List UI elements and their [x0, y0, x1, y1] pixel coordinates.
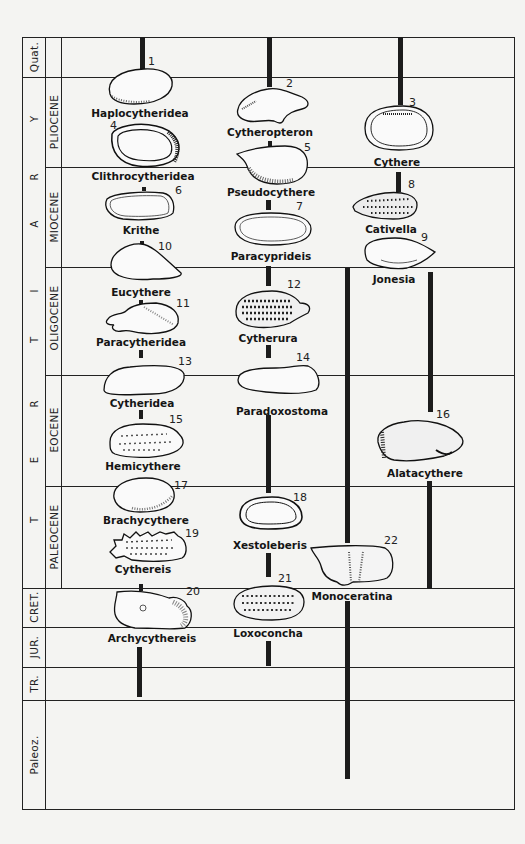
genus-label: Krithe [123, 224, 160, 236]
genus-number: 14 [296, 351, 310, 364]
genus-label: Brachycythere [103, 514, 189, 526]
genus-label: Cytheropteron [227, 126, 313, 138]
period-label-tr: TR. [28, 675, 40, 693]
range-bar-alatacythere [427, 481, 432, 589]
genus-number: 13 [178, 355, 192, 368]
fossil-krithe-drawing [103, 191, 175, 221]
genus-label: Cytherura [238, 332, 297, 344]
genus-label: Clithrocytheridea [92, 170, 195, 182]
epoch-label-eocene: EOCENE [48, 407, 60, 452]
fossil-eucythere-drawing [109, 243, 184, 281]
genus-number: 15 [169, 413, 183, 426]
range-bar-haplocytheridea [140, 37, 145, 69]
genus-label: Paradoxostoma [236, 405, 328, 417]
genus-number: 2 [286, 77, 293, 90]
tertiary-letter: Y [29, 116, 40, 122]
fossil-brachycythere-drawing [112, 478, 177, 512]
fossil-cytheropteron-drawing [236, 87, 312, 125]
genus-label: Alatacythere [387, 467, 463, 479]
genus-label: Jonesia [373, 273, 416, 285]
epoch-label-oligocene: OLIGOCENE [48, 286, 60, 351]
fossil-cythereis-drawing [108, 530, 190, 562]
fossil-pseudocythere-drawing [237, 146, 309, 184]
genus-number: 4 [110, 119, 117, 132]
boundary-jur-tr [22, 667, 515, 668]
range-bar-paradoxostoma [266, 345, 271, 358]
range-bar-cytheropteron [267, 37, 272, 87]
genus-label: Cythere [374, 156, 420, 168]
range-bar-hemicythere [139, 410, 143, 419]
range-bar-xestoleberis [266, 415, 271, 493]
tertiary-letter: T [29, 517, 40, 523]
genus-label: Archycythereis [108, 632, 197, 644]
genus-number: 12 [287, 278, 301, 291]
period-label-quat: Quat. [28, 42, 40, 72]
period-label-jur: JUR. [28, 636, 40, 658]
fossil-paradoxostoma-drawing [236, 364, 322, 394]
range-bar-cythere [398, 37, 403, 105]
genus-label: Eucythere [111, 286, 171, 298]
genus-label: Cythereis [115, 563, 171, 575]
genus-label: Loxoconcha [233, 627, 303, 639]
tertiary-letter: T [29, 337, 40, 343]
genus-number: 3 [409, 96, 416, 109]
genus-number: 6 [175, 184, 182, 197]
genus-number: 21 [278, 572, 292, 585]
genus-number: 10 [158, 240, 172, 253]
genus-number: 18 [293, 491, 307, 504]
quat-epoch-divider [61, 37, 62, 77]
genus-number: 11 [176, 297, 190, 310]
tertiary-letter: R [29, 174, 40, 181]
fossil-alatacythere-drawing [374, 418, 464, 464]
fossil-monoceratina-drawing [309, 544, 395, 586]
range-bar-loxoconcha [266, 641, 271, 666]
fossil-cytheridea-drawing [102, 364, 185, 395]
genus-label: Hemicythere [105, 460, 180, 472]
era-column-divider [45, 37, 46, 810]
range-bar-paracyprideis [266, 200, 271, 210]
genus-label: Pseudocythere [227, 186, 315, 198]
fossil-loxoconcha-drawing [232, 584, 306, 622]
range-bar-monoceratina [345, 268, 350, 543]
fossil-clithrocytheridea-drawing [108, 122, 182, 168]
genus-number: 22 [384, 534, 398, 547]
period-label-cret: CRET. [28, 591, 40, 622]
genus-label: Haplocytheridea [91, 107, 188, 119]
range-bar-jonesia [428, 272, 433, 412]
fossil-cythere-drawing [363, 104, 435, 152]
range-bar-archycythereis-lower [137, 647, 142, 697]
genus-number: 17 [174, 479, 188, 492]
fossil-haplocytheridea-drawing [106, 68, 174, 105]
epoch-label-pliocene: PLIOCENE [48, 95, 60, 149]
fossil-hemicythere-drawing [107, 422, 187, 459]
genus-number: 20 [186, 585, 200, 598]
genus-number: 7 [296, 200, 303, 213]
range-bar-cytherura [266, 266, 271, 286]
genus-label: Paracyprideis [231, 250, 312, 262]
genus-label: Monoceratina [311, 590, 392, 602]
range-bar-monoceratina-lower [345, 601, 350, 779]
tertiary-letter: A [29, 221, 40, 228]
tertiary-letter: I [29, 290, 40, 293]
genus-label: Cytheridea [110, 397, 175, 409]
fossil-cytherura-drawing [234, 289, 312, 329]
genus-label: Cativella [365, 223, 417, 235]
tertiary-letter: R [29, 401, 40, 408]
genus-number: 5 [304, 141, 311, 154]
tertiary-letter: E [29, 457, 40, 463]
genus-number: 1 [148, 55, 155, 68]
genus-number: 8 [408, 178, 415, 191]
genus-number: 9 [421, 231, 428, 244]
epoch-label-paleocene: PALEOCENE [48, 505, 60, 570]
genus-number: 16 [436, 408, 450, 421]
period-label-paleoz: Paleoz. [28, 735, 40, 774]
genus-label: Xestoleberis [233, 539, 307, 551]
genus-label: Paracytheridea [96, 336, 186, 348]
fossil-paracyprideis-drawing [231, 211, 313, 247]
range-bar-xestoleberis-lower [266, 553, 271, 577]
range-bar-cativella [396, 172, 401, 192]
boundary-tr-paleoz [22, 700, 515, 701]
range-bar-cytheridea [139, 350, 143, 358]
epoch-column-divider [61, 77, 62, 588]
fossil-cativella-drawing [351, 191, 419, 221]
